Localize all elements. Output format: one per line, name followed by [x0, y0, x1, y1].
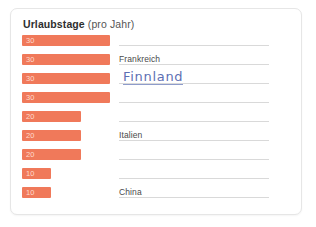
vacation-days-card: Urlaubstage (pro Jahr) 3030Frankreich30F…	[10, 8, 302, 215]
page-title-light: (pro Jahr)	[85, 18, 135, 30]
chart-row: 20	[11, 147, 302, 166]
chart-row: 30	[11, 33, 302, 52]
chart-row: 20	[11, 109, 302, 128]
page-title: Urlaubstage (pro Jahr)	[23, 18, 134, 30]
chart-row: 10	[11, 166, 302, 185]
country-label: China	[119, 186, 142, 198]
chart-row: 10China	[11, 185, 302, 204]
bar-value-label: 10	[26, 168, 35, 179]
bar-value-label: 30	[26, 35, 35, 46]
ruled-line	[119, 45, 269, 46]
bar: 20	[22, 130, 81, 141]
bar-chart: 3030Frankreich30Finnland302020Italien201…	[11, 33, 302, 204]
bar: 10	[22, 168, 51, 179]
bar-value-label: 20	[26, 130, 35, 141]
bar: 20	[22, 149, 81, 160]
ruled-line	[119, 121, 269, 122]
ruled-line	[119, 102, 269, 103]
page-title-strong: Urlaubstage	[23, 18, 85, 30]
country-label: Frankreich	[119, 53, 160, 65]
country-label: Italien	[119, 129, 142, 141]
bar: 30	[22, 73, 110, 84]
bar-value-label: 20	[26, 111, 35, 122]
bar: 30	[22, 54, 110, 65]
bar-value-label: 30	[26, 92, 35, 103]
bar: 10	[22, 187, 51, 198]
bar: 30	[22, 92, 110, 103]
ruled-line	[119, 159, 269, 160]
handwritten-country-label: Finnland	[123, 69, 183, 85]
chart-row: 30Finnland	[11, 71, 302, 90]
chart-row: 30	[11, 90, 302, 109]
bar: 30	[22, 35, 110, 46]
chart-row: 20Italien	[11, 128, 302, 147]
bar: 20	[22, 111, 81, 122]
bar-value-label: 30	[26, 54, 35, 65]
bar-value-label: 10	[26, 187, 35, 198]
bar-value-label: 20	[26, 149, 35, 160]
ruled-line	[119, 178, 269, 179]
bar-value-label: 30	[26, 73, 35, 84]
